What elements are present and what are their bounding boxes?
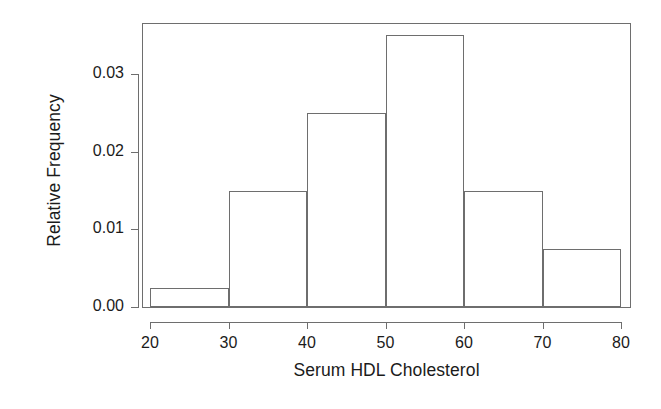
x-axis-tick [150, 322, 151, 329]
y-axis-tick-label: 0.00 [54, 297, 124, 315]
x-axis-tick-label: 80 [591, 334, 651, 352]
y-axis-tick [131, 307, 138, 308]
x-axis-tick [464, 322, 465, 329]
plot-frame [142, 23, 631, 308]
y-axis-line [138, 74, 139, 308]
x-axis-tick-label: 30 [199, 334, 259, 352]
y-axis-tick [131, 229, 138, 230]
x-axis-tick [307, 322, 308, 329]
x-axis-tick-label: 70 [513, 334, 573, 352]
x-axis-title: Serum HDL Cholesterol [142, 360, 631, 381]
x-axis-tick [229, 322, 230, 329]
x-axis-tick-label: 60 [434, 334, 494, 352]
x-axis-tick-label: 40 [277, 334, 337, 352]
y-axis-title: Relative Frequency [44, 21, 65, 321]
y-axis-tick-label: 0.02 [54, 142, 124, 160]
x-axis-tick [543, 322, 544, 329]
x-axis-tick-label: 50 [356, 334, 416, 352]
y-axis-tick [131, 74, 138, 75]
y-axis-tick [131, 152, 138, 153]
x-axis-tick [386, 322, 387, 329]
histogram-figure: 0.000.010.020.03 20304050607080 Relative… [0, 0, 661, 409]
y-axis-tick-label: 0.01 [54, 219, 124, 237]
x-axis-tick-label: 20 [120, 334, 180, 352]
x-axis-tick [621, 322, 622, 329]
y-axis-tick-label: 0.03 [54, 64, 124, 82]
